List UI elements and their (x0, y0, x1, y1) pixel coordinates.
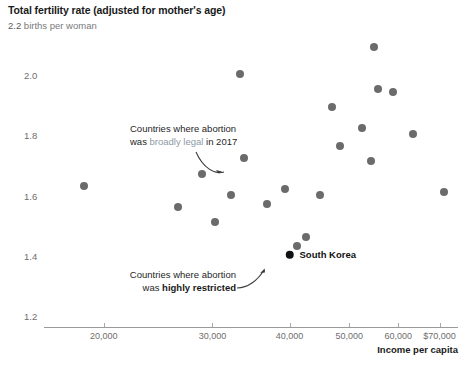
x-axis-tick-mark (440, 323, 441, 327)
data-point (302, 233, 310, 241)
legal-annotation-line2: was broadly legal in 2017 (130, 135, 237, 148)
legal-annotation: Countries where abortion was broadly leg… (130, 122, 237, 148)
y-axis-tick: 1.8 (24, 130, 37, 141)
data-point (227, 191, 235, 199)
data-point (236, 70, 244, 78)
x-axis-tick: 30,000 (199, 331, 227, 341)
chart-root: Total fertility rate (adjusted for mothe… (0, 0, 466, 365)
data-point (358, 124, 366, 132)
legal-annotation-line2-prefix: was (130, 136, 150, 147)
legal-annotation-line1: Countries where abortion (130, 122, 237, 135)
data-point (285, 251, 294, 260)
x-axis-tick: 60,000 (384, 331, 412, 341)
data-point (281, 185, 289, 193)
x-axis-tick: 20,000 (90, 331, 118, 341)
restricted-annotation-line2-prefix: was (143, 282, 163, 293)
x-axis-tick-mark (398, 323, 399, 327)
data-point (80, 182, 88, 190)
x-axis-tick-mark (349, 323, 350, 327)
data-point (198, 170, 206, 178)
x-axis-tick-mark (104, 323, 105, 327)
x-axis-tick: 40,000 (276, 331, 304, 341)
restricted-annotation-line2: was highly restricted (0, 281, 236, 294)
data-point (367, 157, 375, 165)
data-point (316, 191, 324, 199)
restricted-annotation: Countries where abortion was highly rest… (0, 268, 236, 294)
data-point (374, 85, 382, 93)
data-point (370, 43, 378, 51)
data-point (263, 200, 271, 208)
restricted-annotation-emphasis: highly restricted (162, 282, 236, 293)
data-point (174, 203, 182, 211)
data-point (389, 88, 397, 96)
data-point (240, 154, 248, 162)
plot-area: 2.01.81.61.41.220,00030,00040,00050,0006… (0, 0, 466, 365)
y-axis-tick: 2.0 (24, 70, 37, 81)
legal-annotation-line2-suffix: in 2017 (203, 136, 237, 147)
restricted-annotation-line1: Countries where abortion (0, 268, 236, 281)
data-point (440, 188, 448, 196)
legal-annotation-emphasis: broadly legal (150, 136, 204, 147)
x-axis-line (44, 327, 458, 328)
y-axis-tick: 1.4 (24, 251, 37, 262)
x-axis-tick: 50,000 (336, 331, 364, 341)
x-axis-label: Income per capita (377, 344, 458, 355)
data-point (336, 142, 344, 150)
point-label: South Korea (300, 249, 356, 260)
data-point (328, 103, 336, 111)
x-axis-tick-mark (212, 323, 213, 327)
y-axis-tick: 1.6 (24, 191, 37, 202)
x-axis-tick: $70,000 (423, 331, 456, 341)
data-point (409, 130, 417, 138)
x-axis-tick-mark (290, 323, 291, 327)
y-axis-tick: 1.2 (24, 311, 37, 322)
data-point (211, 218, 219, 226)
